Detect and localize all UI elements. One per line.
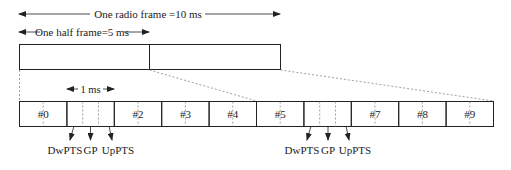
uppts-label: UpPTS bbox=[339, 144, 371, 156]
subframe: #3 bbox=[162, 102, 209, 127]
subframe: #8 bbox=[399, 102, 446, 127]
subframe-label: #2 bbox=[133, 108, 144, 120]
half-frame-dimension: One half frame=5 ms bbox=[19, 26, 149, 38]
gp-label: GP bbox=[321, 144, 335, 156]
radio-frame-box bbox=[20, 45, 281, 70]
subframe-label: #3 bbox=[180, 108, 192, 120]
dwpts-label: DwPTS bbox=[285, 144, 320, 156]
subframe-duration-dimension: 1 ms bbox=[67, 84, 114, 95]
subframe: #9 bbox=[446, 102, 493, 127]
special-subframe bbox=[304, 102, 351, 127]
subframe: #7 bbox=[351, 102, 398, 127]
uppts-label: UpPTS bbox=[102, 144, 134, 156]
subframe: #2 bbox=[114, 102, 161, 127]
subframe-label: #4 bbox=[227, 108, 239, 120]
half-frame-label: One half frame=5 ms bbox=[35, 26, 129, 38]
special-subframe-1-fields: DwPTS GP UpPTS bbox=[48, 126, 135, 156]
subframe-label: #9 bbox=[464, 108, 476, 120]
special-subframe-2-fields: DwPTS GP UpPTS bbox=[285, 126, 372, 156]
subframe-row: #0#2#3#4#5#7#8#9 bbox=[20, 102, 494, 127]
gp-label: GP bbox=[83, 144, 97, 156]
subframe-label: #8 bbox=[417, 108, 429, 120]
radio-frame-label: One radio frame =10 ms bbox=[94, 8, 202, 20]
dwpts-label: DwPTS bbox=[48, 144, 83, 156]
subframe: #4 bbox=[209, 102, 256, 127]
special-subframe bbox=[67, 102, 114, 127]
subframe-label: #0 bbox=[38, 108, 50, 120]
subframe: #5 bbox=[257, 102, 304, 127]
subframe: #0 bbox=[20, 102, 67, 127]
tdd-frame-structure-diagram: One radio frame =10 ms One half frame=5 … bbox=[0, 0, 511, 170]
radio-frame-dimension: One radio frame =10 ms bbox=[19, 8, 280, 20]
subframe-duration-label: 1 ms bbox=[80, 84, 100, 95]
subframe-label: #7 bbox=[370, 108, 382, 120]
subframe-label: #5 bbox=[275, 108, 287, 120]
